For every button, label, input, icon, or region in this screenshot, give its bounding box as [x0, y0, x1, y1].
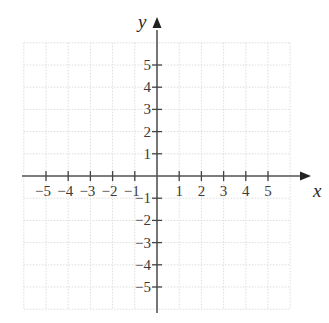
- x-tick-label: 3: [220, 183, 228, 199]
- y-tick-label: −3: [135, 235, 151, 251]
- y-tick-label: −1: [135, 190, 151, 206]
- y-tick-label: −5: [135, 279, 151, 295]
- coordinate-plane: −5−4−3−2−11234554321−1−2−3−4−5 x y: [0, 0, 329, 323]
- x-tick-label: −5: [35, 183, 51, 199]
- x-tick-label: 5: [264, 183, 272, 199]
- x-tick-label: 1: [175, 183, 183, 199]
- y-axis-arrow-icon: [153, 17, 162, 28]
- y-tick-label: 2: [144, 124, 152, 140]
- x-tick-label: −2: [102, 183, 118, 199]
- x-axis-arrow-icon: [300, 172, 311, 181]
- y-tick-label: −4: [135, 257, 151, 273]
- y-tick-label: 1: [144, 146, 152, 162]
- y-tick-label: 3: [144, 101, 152, 117]
- x-tick-label: −3: [79, 183, 95, 199]
- y-tick-label: −2: [135, 212, 151, 228]
- y-axis-label: y: [136, 11, 147, 32]
- y-tick-label: 4: [144, 79, 152, 95]
- x-tick-label: −4: [57, 183, 73, 199]
- y-tick-label: 5: [144, 57, 152, 73]
- x-axis-label: x: [312, 180, 322, 201]
- x-tick-label: 2: [198, 183, 206, 199]
- x-tick-label: 4: [242, 183, 250, 199]
